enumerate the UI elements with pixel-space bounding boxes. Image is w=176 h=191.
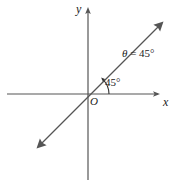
x-axis-label: x (163, 96, 168, 108)
y-axis-label: y (76, 3, 81, 15)
theta-line-segment (40, 25, 160, 145)
theta-value-text: = 45° (127, 47, 154, 59)
origin-label: O (90, 96, 98, 107)
figure-canvas (0, 0, 176, 191)
x-axis (7, 91, 160, 97)
coordinate-plane-figure: y x O 45° θ = 45° (0, 0, 176, 191)
theta-equals-label: θ = 45° (122, 48, 155, 59)
theta-line (37, 22, 164, 149)
angle-measure-label: 45° (105, 77, 120, 88)
